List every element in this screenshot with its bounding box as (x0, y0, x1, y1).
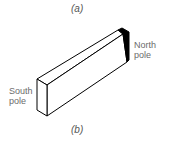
south-pole-label: South pole (9, 86, 33, 106)
south-pole-label-line2: pole (9, 96, 33, 106)
north-pole-label: North pole (134, 40, 156, 60)
bar-magnet-drawing (0, 0, 169, 144)
south-pole-label-line1: South (9, 86, 33, 96)
caption-b: (b) (71, 124, 83, 135)
magnet-south-end-face (37, 79, 47, 116)
north-pole-label-line2: pole (134, 50, 156, 60)
north-pole-label-line1: North (134, 40, 156, 50)
